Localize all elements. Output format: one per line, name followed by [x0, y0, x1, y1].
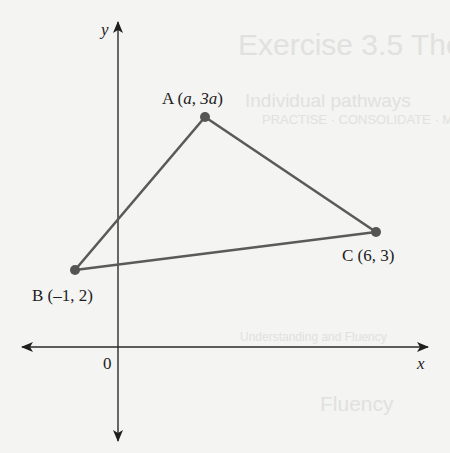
point-a-name: A — [162, 89, 173, 108]
point-b-name: B — [32, 286, 43, 305]
point-c-name: C — [342, 246, 353, 265]
point-b — [70, 265, 80, 275]
point-b-coords: (–1, 2) — [48, 286, 93, 305]
point-b-label: B (–1, 2) — [32, 286, 93, 306]
point-a-label: A (a, 3a) — [162, 89, 223, 109]
triangle-abc — [75, 117, 376, 270]
point-c-label: C (6, 3) — [342, 246, 394, 266]
point-a — [200, 112, 210, 122]
x-axis-label: x — [417, 354, 425, 374]
point-c-coords: (6, 3) — [358, 246, 395, 265]
point-c — [371, 227, 381, 237]
origin-label: 0 — [103, 354, 112, 374]
coordinate-diagram — [0, 0, 450, 453]
y-axis-label: y — [101, 20, 109, 40]
point-a-coords: (a, 3a) — [178, 89, 223, 108]
